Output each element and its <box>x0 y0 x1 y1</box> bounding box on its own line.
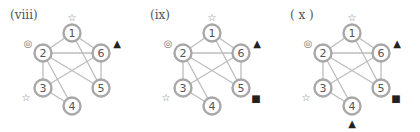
node-label: 2 <box>320 47 327 60</box>
node-label: 3 <box>180 82 187 95</box>
graph-svg: 123456☆◎☆▲■▲ <box>280 0 420 132</box>
diagram-ix: (ix) 123456☆◎☆▲■ <box>140 0 280 132</box>
node-2: 2 <box>315 45 332 62</box>
node-2: 2 <box>175 45 192 62</box>
filled-square-icon: ■ <box>251 93 260 104</box>
node-5: 5 <box>373 80 390 97</box>
node-label: 6 <box>238 47 245 60</box>
node-label: 4 <box>69 100 76 113</box>
node-label: 5 <box>378 82 385 95</box>
filled-square-icon: ■ <box>391 93 400 104</box>
star-outline-icon: ☆ <box>22 92 31 103</box>
graph-svg: 123456☆◎☆▲■ <box>140 0 280 132</box>
node-label: 6 <box>98 47 105 60</box>
double-circle-icon: ◎ <box>304 38 313 49</box>
node-label: 6 <box>378 47 385 60</box>
node-label: 5 <box>238 82 245 95</box>
node-label: 4 <box>209 100 216 113</box>
star-outline-icon: ☆ <box>302 92 311 103</box>
node-4: 4 <box>64 98 81 115</box>
filled-triangle-icon: ▲ <box>113 38 121 49</box>
node-1: 1 <box>64 25 81 42</box>
node-3: 3 <box>315 80 332 97</box>
diagram-x: ( x ) 123456☆◎☆▲■▲ <box>280 0 420 132</box>
graph-svg: 123456☆◎☆▲ <box>0 0 140 132</box>
star-outline-icon: ☆ <box>208 12 217 23</box>
node-label: 4 <box>349 100 356 113</box>
diagram-viii: (viii) 123456☆◎☆▲ <box>0 0 140 132</box>
node-6: 6 <box>93 45 110 62</box>
node-4: 4 <box>204 98 221 115</box>
filled-triangle-icon: ▲ <box>348 118 356 129</box>
node-label: 1 <box>349 27 356 40</box>
node-label: 3 <box>40 82 47 95</box>
node-4: 4 <box>344 98 361 115</box>
node-5: 5 <box>93 80 110 97</box>
node-5: 5 <box>233 80 250 97</box>
double-circle-icon: ◎ <box>24 38 33 49</box>
node-label: 1 <box>209 27 216 40</box>
star-outline-icon: ☆ <box>162 92 171 103</box>
node-3: 3 <box>35 80 52 97</box>
double-circle-icon: ◎ <box>164 38 173 49</box>
node-1: 1 <box>204 25 221 42</box>
star-outline-icon: ☆ <box>68 12 77 23</box>
filled-triangle-icon: ▲ <box>253 38 261 49</box>
node-label: 2 <box>180 47 187 60</box>
node-2: 2 <box>35 45 52 62</box>
node-6: 6 <box>233 45 250 62</box>
node-3: 3 <box>175 80 192 97</box>
node-label: 1 <box>69 27 76 40</box>
node-label: 3 <box>320 82 327 95</box>
node-1: 1 <box>344 25 361 42</box>
node-6: 6 <box>373 45 390 62</box>
filled-triangle-icon: ▲ <box>393 38 401 49</box>
node-label: 2 <box>40 47 47 60</box>
star-outline-icon: ☆ <box>348 12 357 23</box>
node-label: 5 <box>98 82 105 95</box>
